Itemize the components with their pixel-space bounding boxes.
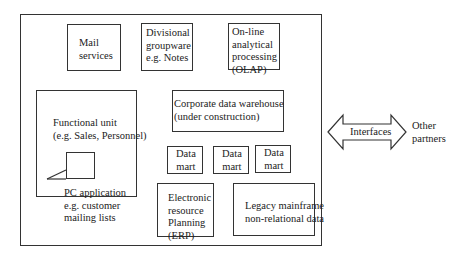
interfaces-label: Interfaces bbox=[350, 126, 391, 139]
other-partners-label: Other partners bbox=[412, 120, 446, 145]
